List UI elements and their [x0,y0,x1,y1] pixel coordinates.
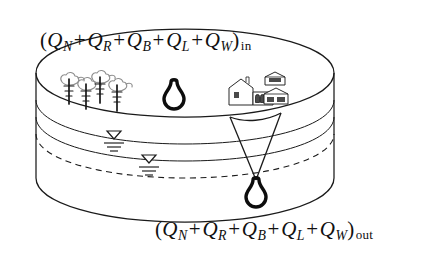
inflow-term-1-subscript: N [63,39,73,54]
inflow-term-5-symbol: Q [205,28,220,52]
outflow-term-3-symbol: Q [242,217,257,241]
well-symbol-upper [164,80,184,109]
outflow-condition-subscript: out [354,227,373,242]
outflow-term-4-symbol: Q [281,217,296,241]
inflow-term-5-subscript: W [220,39,232,54]
inflow-term-4-subscript: L [182,39,190,54]
inflow-operator-4: + [190,28,205,52]
outflow-operator-3: + [266,217,281,241]
cone-of-depression-group [230,113,281,180]
well-symbol-lower [246,178,266,207]
inflow-term-4-symbol: Q [166,28,181,52]
inflow-equation: (QN+QR+QB+QL+QW)in [40,30,251,54]
building-house-upper [265,72,285,85]
inflow-operator-2: + [112,28,127,52]
outflow-term-3-subscript: B [257,228,266,243]
outflow-term-1-subscript: N [178,228,188,243]
outflow-term-5-symbol: Q [320,217,335,241]
aquifer-block [36,29,334,222]
inflow-condition-subscript: in [239,38,251,53]
building-house-lower [264,88,288,104]
inflow-term-3-symbol: Q [127,28,142,52]
cylinder-bottom-arc [36,178,334,222]
tree-4 [109,78,132,111]
tree-2 [78,77,101,109]
outflow-operator-2: + [227,217,242,241]
cone-right-limb [256,113,281,180]
water-table-dashed-line [36,134,334,178]
tree-group [61,70,132,111]
outflow-operator-1: + [187,217,202,241]
inflow-term-1-symbol: Q [47,28,62,52]
outflow-equation: (QN+QR+QB+QL+QW)out [155,219,373,243]
outflow-term-1-symbol: Q [162,217,177,241]
cone-left-limb [230,117,256,180]
water-table-symbol-1 [104,131,124,151]
building-group [229,72,288,105]
inflow-operator-3: + [151,28,166,52]
inflow-term-2-symbol: Q [87,28,102,52]
outflow-term-2-subscript: R [218,228,227,243]
outflow-operator-4: + [305,217,320,241]
strata-line-2 [36,117,334,161]
outflow-term-4-subscript: L [297,228,305,243]
inflow-term-2-subscript: R [103,39,112,54]
water-table-symbol-2 [139,155,159,175]
outflow-term-2-symbol: Q [202,217,217,241]
diagram-canvas: (QN+QR+QB+QL+QW)in (QN+QR+QB+QL+QW)out [0,0,442,270]
outflow-term-5-subscript: W [335,228,347,243]
inflow-term-3-subscript: B [142,39,151,54]
inflow-operator-1: + [72,28,87,52]
strata-line-1 [36,100,334,144]
